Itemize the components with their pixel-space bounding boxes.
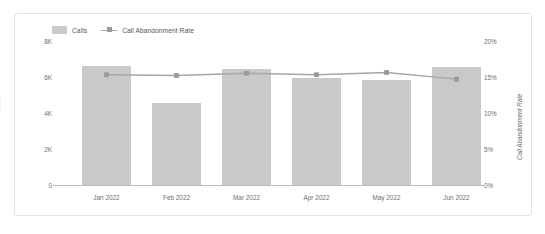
y-right-tick-0: 0% — [484, 182, 493, 189]
y-left-tick-6k: 6K — [44, 74, 52, 81]
y-right-tick-15: 15% — [484, 74, 497, 81]
rate-marker-may-2022[interactable] — [384, 70, 389, 75]
y-axis-right-title: Call Abandonment Rate — [516, 93, 523, 160]
bar-feb-2022[interactable] — [152, 103, 201, 185]
bar-jan-2022[interactable] — [82, 66, 131, 185]
y-left-tick-8k: 8K — [44, 38, 52, 45]
y-right-tick-10: 10% — [484, 110, 497, 117]
y-left-tick-2k: 2K — [44, 146, 52, 153]
chart-legend: Calls Call Abandonment Rate — [52, 24, 194, 36]
plot-area: Jan 2022 Feb 2022 Mar 2022 Apr 2022 May … — [60, 36, 478, 186]
y-right-tick-5: 5% — [484, 146, 493, 153]
rate-line-path — [107, 73, 457, 80]
y-axis-left: 8K 6K 4K 2K 0 — [24, 36, 52, 186]
bar-swatch-icon — [52, 26, 67, 34]
y-left-tick-4k: 4K — [44, 110, 52, 117]
chart-root: Calls Call Abandonment Rate 8K 6K 4K 2K … — [0, 0, 545, 234]
y-axis-left-title: Calls — [0, 98, 1, 112]
bar-may-2022[interactable] — [362, 80, 411, 185]
y-axis-right: 20% 15% 10% 5% 0% — [484, 36, 514, 186]
bar-jun-2022[interactable] — [432, 67, 481, 185]
x-label-feb-2022: Feb 2022 — [142, 194, 212, 201]
axis-tick-left-0 — [53, 185, 60, 186]
legend-item-calls[interactable]: Calls — [52, 26, 87, 34]
x-label-jan-2022: Jan 2022 — [72, 194, 142, 201]
y-right-tick-20: 20% — [484, 38, 497, 45]
legend-label-calls: Calls — [72, 27, 87, 34]
bar-apr-2022[interactable] — [292, 78, 341, 185]
x-label-jun-2022: Jun 2022 — [422, 194, 492, 201]
rate-marker-feb-2022[interactable] — [174, 73, 179, 78]
y-left-tick-0: 0 — [48, 182, 52, 189]
x-label-may-2022: May 2022 — [352, 194, 422, 201]
axis-tick-right-0 — [478, 185, 485, 186]
x-label-mar-2022: Mar 2022 — [212, 194, 282, 201]
x-label-apr-2022: Apr 2022 — [282, 194, 352, 201]
bar-mar-2022[interactable] — [222, 69, 271, 185]
legend-item-abandonment-rate[interactable]: Call Abandonment Rate — [101, 26, 194, 34]
line-marker-icon — [101, 26, 117, 34]
legend-label-abandonment-rate: Call Abandonment Rate — [122, 27, 194, 34]
rate-marker-apr-2022[interactable] — [314, 72, 319, 77]
x-axis-baseline — [60, 185, 478, 186]
